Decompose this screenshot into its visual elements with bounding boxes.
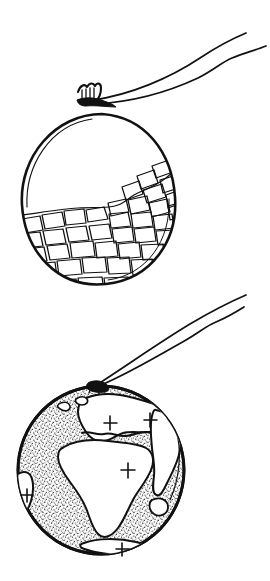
cobblestone xyxy=(131,259,154,275)
cobblestone xyxy=(64,209,86,225)
cobblestone xyxy=(47,244,70,260)
landmass-greenland xyxy=(75,397,87,405)
cobblestone xyxy=(107,257,131,274)
balloon-ribbon-strings xyxy=(93,33,266,104)
panel-balloon xyxy=(20,33,266,293)
balloon-knot xyxy=(77,83,116,107)
cobblestone xyxy=(174,217,187,232)
panel-globe xyxy=(14,295,246,557)
balloon-cobblestone-fill xyxy=(20,160,187,293)
cobblestone xyxy=(66,226,89,242)
cobblestone xyxy=(160,175,179,193)
globe-ribbon-upper xyxy=(98,295,246,384)
illustration-canvas: Balloon and Globe Illustration xyxy=(0,0,270,581)
cobblestone xyxy=(131,212,153,228)
balloon-ribbon-lower xyxy=(95,46,266,104)
balloon-inner-edge-left xyxy=(27,119,92,207)
cobblestone xyxy=(118,242,141,259)
landmass-madagascar xyxy=(150,498,168,515)
balloon-inner-edge-right xyxy=(108,199,169,280)
cobblestone xyxy=(82,257,107,273)
cobblestone xyxy=(89,224,112,240)
cobblestone xyxy=(86,207,108,222)
cobblestone xyxy=(70,241,95,258)
cobblestone xyxy=(128,196,150,214)
cobblestone xyxy=(134,227,156,243)
cobblestone xyxy=(42,212,65,229)
drawing-svg xyxy=(0,0,270,581)
cobblestone xyxy=(43,229,66,245)
globe-ribbon-strings xyxy=(98,295,246,386)
globe-ribbon-lower xyxy=(99,307,244,386)
